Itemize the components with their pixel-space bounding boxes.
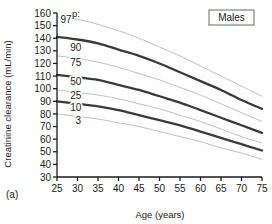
percentile-header-label: p: <box>72 8 80 19</box>
x-tick-label: 35 <box>92 183 104 194</box>
x-tick-label: 65 <box>215 183 227 194</box>
x-tick-label: 60 <box>195 183 207 194</box>
y-tick-label: 130 <box>34 45 51 56</box>
panel-label: (a) <box>6 189 18 200</box>
x-tick-label: 45 <box>133 183 145 194</box>
figure-panel-a: 30405060708090100110120130140150160 2530… <box>0 0 272 224</box>
y-tick-label: 160 <box>34 8 51 19</box>
percentile-label-p50: 50 <box>70 76 82 87</box>
y-tick-label: 100 <box>34 83 51 94</box>
percentile-label-p90: 90 <box>70 42 82 53</box>
percentile-label-p10: 10 <box>70 102 82 113</box>
percentile-label-p3: 3 <box>76 115 82 126</box>
group-badge-label: Males <box>218 12 245 23</box>
x-tick-label: 30 <box>72 183 84 194</box>
y-tick-label: 120 <box>34 58 51 69</box>
y-tick-label: 50 <box>40 146 52 157</box>
percentile-label-p25: 25 <box>70 90 82 101</box>
y-tick-label: 80 <box>40 109 52 120</box>
y-tick-label: 90 <box>40 96 52 107</box>
y-tick-label: 40 <box>40 159 52 170</box>
x-tick-label: 40 <box>113 183 125 194</box>
y-tick-label: 30 <box>40 172 52 183</box>
y-tick-label: 150 <box>34 20 51 31</box>
y-tick-label: 140 <box>34 33 51 44</box>
group-badge: Males <box>209 10 254 25</box>
x-tick-label: 75 <box>256 183 268 194</box>
percentile-label-p97: 97 <box>60 14 72 25</box>
y-tick-label: 60 <box>40 134 52 145</box>
x-axis-title: Age (years) <box>135 209 184 220</box>
y-tick-label: 110 <box>35 71 51 82</box>
x-tick-label: 70 <box>236 183 248 194</box>
percentile-label-p75: 75 <box>70 57 82 68</box>
x-tick-label: 25 <box>51 183 63 194</box>
y-axis-title: Creatinine clearance (mL/min) <box>2 40 13 167</box>
y-tick-label: 70 <box>40 121 52 132</box>
creatinine-clearance-age-chart: 30405060708090100110120130140150160 2530… <box>0 0 272 224</box>
x-tick-label: 55 <box>174 183 186 194</box>
x-tick-label: 50 <box>154 183 166 194</box>
